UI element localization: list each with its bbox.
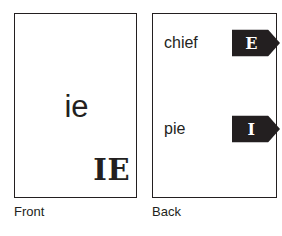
back-card-entry: chief E (153, 26, 278, 60)
back-card-entry-word: chief (164, 34, 198, 52)
back-card-entry-tag-letter: I (232, 116, 271, 143)
front-card-main-text: ie (15, 90, 138, 124)
front-card[interactable]: ie IE (14, 13, 137, 198)
right-arrow-tag-icon: I (232, 116, 280, 143)
right-arrow-tag-icon: E (232, 30, 280, 57)
back-card-entry: pie I (153, 112, 278, 146)
back-card-entry-word: pie (164, 120, 185, 138)
back-card-caption: Back (152, 204, 181, 220)
back-card[interactable]: chief E pie I (152, 13, 277, 198)
front-card-caption: Front (14, 204, 44, 220)
back-card-entry-tag-letter: E (232, 30, 271, 57)
front-card-corner-text: IE (93, 155, 130, 185)
flashcard-pair: ie IE Front chief E pie I Back (0, 0, 282, 236)
